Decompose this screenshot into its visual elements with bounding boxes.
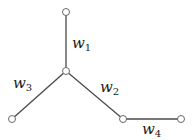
node-center [63, 68, 70, 75]
label-w4: w4 [142, 120, 161, 139]
node-top [63, 9, 70, 16]
label-w3: w3 [13, 74, 32, 93]
label-w2: w2 [100, 78, 119, 97]
tree-diagram: w1 w2 w3 w4 [0, 0, 193, 140]
node-middle [120, 116, 127, 123]
node-left [9, 116, 16, 123]
node-right [178, 116, 185, 123]
label-w1: w1 [72, 34, 91, 53]
